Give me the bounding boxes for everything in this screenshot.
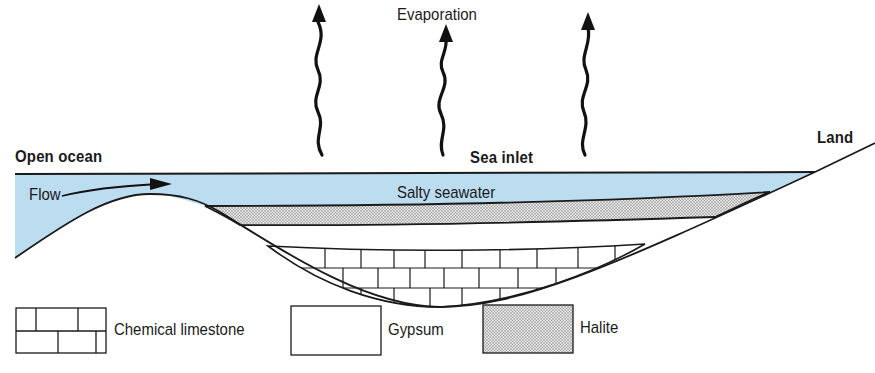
legend-swatch-limestone — [16, 308, 106, 353]
evaporation-arrow-3 — [582, 28, 589, 155]
land-label: Land — [817, 128, 853, 148]
evaporation-arrowhead-1 — [312, 4, 326, 22]
legend-label-halite: Halite — [580, 318, 618, 338]
evaporation-arrow-2 — [439, 38, 446, 155]
evaporation-arrow-1 — [316, 22, 322, 155]
legend-swatch-halite — [483, 305, 573, 353]
open-ocean-label: Open ocean — [15, 147, 102, 167]
legend-label-limestone: Chemical limestone — [114, 320, 245, 340]
legend-label-gypsum: Gypsum — [388, 320, 444, 340]
legend-swatch-gypsum — [291, 306, 381, 355]
chemical-limestone-layer — [250, 244, 660, 310]
flow-label: Flow — [29, 185, 61, 205]
evaporation-arrowhead-3 — [581, 12, 595, 30]
salty-seawater-label: Salty seawater — [397, 183, 495, 203]
sea-inlet-label: Sea inlet — [470, 148, 533, 168]
evaporation-label: Evaporation — [397, 5, 477, 25]
evaporation-arrowhead-2 — [439, 24, 453, 42]
